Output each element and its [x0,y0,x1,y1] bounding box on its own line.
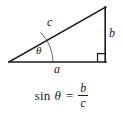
label-hypotenuse-c: c [47,16,52,28]
triangle-side-c-hypotenuse [9,7,106,62]
equation-fraction: b c [78,82,88,109]
right-angle-marker-icon [98,54,106,62]
trigonometry-figure: c b a θ sin θ = b c [0,0,123,113]
label-adjacent-a: a [54,63,60,75]
equation-row: sin θ = b c [35,82,89,109]
sine-equation: sin θ = b c [0,82,123,109]
angle-arc-icon [41,32,53,62]
equation-function-name: sin [35,88,51,104]
fraction-numerator: b [78,82,88,95]
equation-equals-sign: = [66,88,73,104]
fraction-denominator: c [79,96,88,109]
label-opposite-b: b [109,27,115,39]
equation-angle-symbol: θ [55,88,61,104]
label-angle-theta: θ [36,45,41,56]
